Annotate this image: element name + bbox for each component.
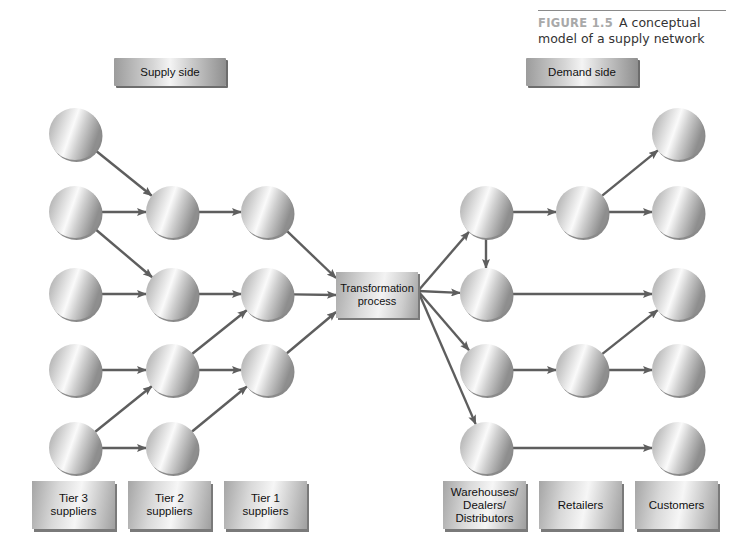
node-wdd-wb (460, 268, 514, 322)
node-wdd-wc (460, 344, 514, 398)
node-retailers-rb (556, 344, 610, 398)
transformation-process-box: Transformation process (336, 272, 418, 318)
arrow-t1a-to-transform (286, 230, 336, 278)
arrow-t2c-to-t1b (192, 310, 246, 354)
arrow-t3a-to-t2a (95, 150, 151, 195)
arrow-transform-to-wb (418, 291, 460, 293)
node-tier1-t1b (241, 268, 295, 322)
node-tier3-t3d (49, 344, 103, 398)
tier3-suppliers-label: Tier 3 suppliers (32, 481, 115, 529)
arrow-t1c-to-transform (287, 312, 336, 353)
tier2-suppliers-label: Tier 2 suppliers (128, 481, 211, 529)
arrow-t2d-to-t1c (192, 386, 247, 431)
node-tier2-t2a (146, 186, 200, 240)
warehouses-dealers-distributors-label: Warehouses/ Dealers/ Distributors (443, 481, 526, 529)
node-tier3-t3e (49, 422, 103, 476)
arrow-t3e-to-t2c (95, 386, 151, 431)
node-tier2-t2c (146, 344, 200, 398)
node-tier3-t3c (49, 268, 103, 322)
node-customers-ca (652, 108, 706, 162)
node-customers-cb (652, 186, 706, 240)
node-tier2-t2b (146, 268, 200, 322)
arrow-ra-to-ca (602, 150, 658, 195)
node-tier3-t3b (49, 186, 103, 240)
arrow-transform-to-wa (418, 232, 469, 291)
node-tier1-t1a (241, 186, 295, 240)
arrow-t3b-to-t2b (95, 229, 152, 277)
node-tier2-t2d (146, 422, 200, 476)
node-customers-cd (652, 344, 706, 398)
node-wdd-wd (460, 422, 514, 476)
node-tier3-t3a (49, 108, 103, 162)
node-customers-cc (652, 268, 706, 322)
node-customers-ce (652, 422, 706, 476)
tier1-suppliers-label: Tier 1 suppliers (224, 481, 307, 529)
arrow-rb-to-cc (602, 310, 657, 354)
customers-label: Customers (635, 481, 718, 529)
arrow-t1b-to-transform (293, 294, 336, 295)
node-retailers-ra (556, 186, 610, 240)
retailers-label: Retailers (539, 481, 622, 529)
